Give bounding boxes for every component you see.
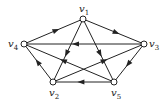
vertex-label-v5: v5 — [111, 88, 121, 101]
vertex-label-v2: v2 — [49, 88, 59, 101]
arrowhead-icon — [126, 60, 132, 67]
arrowhead-icon — [52, 29, 59, 34]
vertex-label-v1: v1 — [79, 4, 89, 17]
arrowhead-icon — [65, 49, 70, 56]
vertex-v2 — [50, 79, 56, 85]
arrowhead-icon — [77, 79, 84, 84]
graph-diagram: v1v2v3v4v5 — [0, 0, 166, 104]
arrowhead-icon — [60, 59, 67, 64]
vertex-v5 — [111, 79, 117, 85]
vertex-v3 — [141, 41, 147, 47]
arrowhead-icon — [112, 29, 119, 34]
vertex-label-v3: v3 — [149, 39, 159, 52]
arrowhead-icon — [72, 41, 79, 46]
vertex-label-v4: v4 — [8, 39, 18, 52]
edge-v1-v5 — [83, 19, 114, 82]
arrowhead-icon — [100, 59, 107, 64]
arrowhead-icon — [96, 49, 101, 56]
arrowhead-icon — [36, 59, 42, 66]
vertex-v4 — [21, 41, 27, 47]
